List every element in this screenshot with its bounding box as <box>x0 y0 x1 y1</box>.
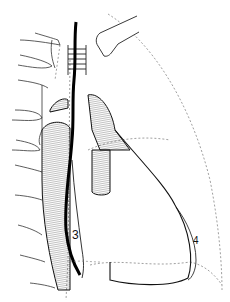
heart-outline <box>110 130 196 285</box>
clavicle <box>96 16 139 56</box>
label-4: 4 <box>193 236 199 246</box>
aorta <box>88 95 130 195</box>
anatomical-illustration <box>0 0 230 302</box>
label-3: 3 <box>72 229 79 241</box>
trachea <box>68 45 86 75</box>
